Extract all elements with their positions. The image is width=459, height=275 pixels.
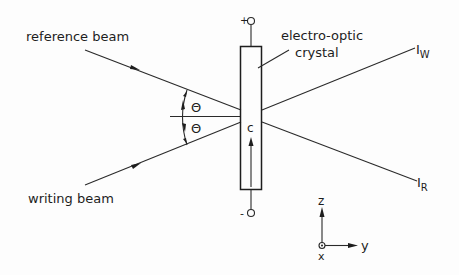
x-axis-dot-icon	[321, 245, 323, 247]
angle-arrow-bottom-icon	[183, 138, 187, 144]
reference-beam-label: reference beam	[26, 29, 129, 44]
theta-upper-label: Θ	[191, 100, 201, 115]
bottom-electrode-terminal	[248, 210, 255, 217]
top-electrode-terminal	[248, 18, 255, 25]
c-axis-label: c	[247, 121, 254, 135]
z-axis-label: z	[318, 194, 324, 208]
y-axis-label: y	[361, 238, 369, 253]
diagram-canvas: reference beam writing beam Θ Θ + - c el…	[0, 0, 459, 275]
writing-beam	[85, 122, 241, 185]
c-axis-arrow-icon	[249, 137, 254, 146]
y-axis-arrow-icon	[348, 243, 358, 248]
theta-lower-label: Θ	[191, 121, 201, 136]
x-axis-label: x	[318, 250, 325, 263]
iw-label: IW	[416, 42, 430, 60]
z-axis-arrow-icon	[320, 207, 325, 217]
coordinate-axes	[319, 207, 358, 249]
ir-label: IR	[417, 175, 428, 193]
minus-label: -	[240, 207, 244, 220]
reference-beam-arrow-icon	[130, 65, 140, 70]
reference-beam	[85, 50, 241, 110]
crystal-label-line1: electro-optic	[281, 28, 363, 43]
writing-beam-label: writing beam	[28, 191, 114, 206]
ir-output-beam	[262, 122, 417, 181]
crystal-leader-line	[258, 50, 289, 68]
crystal-label-line2: crystal	[295, 45, 339, 60]
angle-arc	[181, 90, 187, 145]
beam-crystal-diagram: reference beam writing beam Θ Θ + - c el…	[0, 0, 459, 275]
plus-label: +	[240, 15, 248, 26]
angle-arrow-top-icon	[183, 91, 187, 97]
